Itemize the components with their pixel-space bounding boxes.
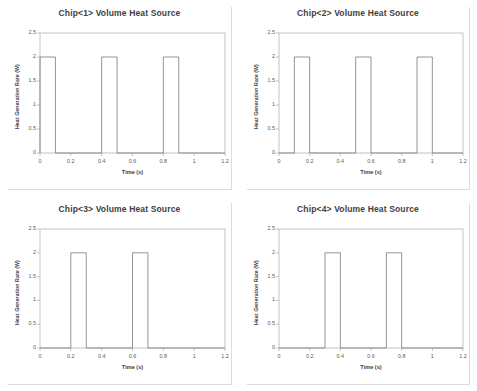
plot-frame bbox=[40, 33, 225, 153]
y-axis-label: Heat Generation Rate (W) bbox=[253, 260, 259, 325]
y-tick-label: 0.5 bbox=[18, 320, 36, 326]
chart-panel-chip4: Chip<4> Volume Heat Source 00.511.522.50… bbox=[239, 196, 477, 391]
x-tick-label: 1.2 bbox=[215, 353, 235, 359]
plot-area-chip1: 00.511.522.500.20.40.60.811.2Time (s)Hea… bbox=[0, 0, 239, 196]
y-tick-label: 2 bbox=[18, 53, 36, 59]
plot-area-chip2: 00.511.522.500.20.40.60.811.2Time (s)Hea… bbox=[239, 0, 477, 196]
y-tick-label: 1.5 bbox=[18, 273, 36, 279]
y-tick-label: 2 bbox=[257, 53, 275, 59]
plot-frame bbox=[279, 229, 463, 348]
chart-panel-chip1: Chip<1> Volume Heat Source 00.511.522.50… bbox=[0, 0, 239, 196]
data-series-line bbox=[279, 253, 463, 348]
x-axis-label: Time (s) bbox=[279, 169, 463, 175]
x-tick-label: 0 bbox=[269, 353, 289, 359]
y-axis-label: Heat Generation Rate (W) bbox=[14, 64, 20, 129]
x-tick-label: 0.6 bbox=[361, 158, 381, 164]
y-tick-label: 2.5 bbox=[18, 29, 36, 35]
chart-panel-chip3: Chip<3> Volume Heat Source 00.511.522.50… bbox=[0, 196, 239, 391]
x-tick-label: 0.4 bbox=[330, 353, 350, 359]
x-tick-label: 0.8 bbox=[392, 158, 412, 164]
y-tick-label: 0 bbox=[18, 344, 36, 350]
y-tick-label: 2.5 bbox=[18, 225, 36, 231]
x-tick-label: 0 bbox=[30, 353, 50, 359]
y-tick-label: 0 bbox=[18, 149, 36, 155]
x-tick-label: 1 bbox=[422, 353, 442, 359]
x-axis-label: Time (s) bbox=[40, 169, 225, 175]
x-tick-label: 0.4 bbox=[92, 353, 112, 359]
y-tick-label: 0.5 bbox=[257, 125, 275, 131]
x-tick-label: 0.8 bbox=[153, 158, 173, 164]
x-tick-label: 1 bbox=[422, 158, 442, 164]
y-tick-label: 1.5 bbox=[257, 273, 275, 279]
data-series-line bbox=[40, 253, 225, 348]
y-tick-label: 1.5 bbox=[18, 77, 36, 83]
y-tick-label: 1 bbox=[257, 101, 275, 107]
x-tick-label: 0.6 bbox=[361, 353, 381, 359]
chart-grid: Chip<1> Volume Heat Source 00.511.522.50… bbox=[0, 0, 477, 391]
plot-area-chip3: 00.511.522.500.20.40.60.811.2Time (s)Hea… bbox=[0, 196, 239, 391]
y-tick-label: 1 bbox=[257, 296, 275, 302]
x-tick-label: 1 bbox=[184, 158, 204, 164]
x-axis-label: Time (s) bbox=[40, 364, 225, 370]
x-tick-label: 1.2 bbox=[453, 158, 473, 164]
x-tick-label: 0 bbox=[30, 158, 50, 164]
x-axis-label: Time (s) bbox=[279, 364, 463, 370]
y-tick-label: 2.5 bbox=[257, 29, 275, 35]
data-series-line bbox=[279, 57, 463, 153]
y-tick-label: 2 bbox=[257, 249, 275, 255]
x-tick-label: 0.6 bbox=[123, 158, 143, 164]
y-tick-label: 2.5 bbox=[257, 225, 275, 231]
x-tick-label: 0.8 bbox=[392, 353, 412, 359]
x-tick-label: 0.2 bbox=[300, 353, 320, 359]
y-tick-label: 1 bbox=[18, 296, 36, 302]
x-tick-label: 1.2 bbox=[215, 158, 235, 164]
figure-canvas: Chip<1> Volume Heat Source 00.511.522.50… bbox=[0, 0, 477, 391]
y-axis-label: Heat Generation Rate (W) bbox=[253, 64, 259, 129]
y-tick-label: 0 bbox=[257, 149, 275, 155]
y-tick-label: 1.5 bbox=[257, 77, 275, 83]
y-tick-label: 1 bbox=[18, 101, 36, 107]
plot-area-chip4: 00.511.522.500.20.40.60.811.2Time (s)Hea… bbox=[239, 196, 477, 391]
x-tick-label: 0.2 bbox=[61, 158, 81, 164]
y-tick-label: 0.5 bbox=[257, 320, 275, 326]
y-tick-label: 2 bbox=[18, 249, 36, 255]
x-tick-label: 0.4 bbox=[330, 158, 350, 164]
x-tick-label: 1.2 bbox=[453, 353, 473, 359]
y-tick-label: 0.5 bbox=[18, 125, 36, 131]
chart-panel-chip2: Chip<2> Volume Heat Source 00.511.522.50… bbox=[239, 0, 477, 196]
x-tick-label: 1 bbox=[184, 353, 204, 359]
y-tick-label: 0 bbox=[257, 344, 275, 350]
x-tick-label: 0.8 bbox=[153, 353, 173, 359]
x-tick-label: 0.6 bbox=[123, 353, 143, 359]
y-axis-label: Heat Generation Rate (W) bbox=[14, 260, 20, 325]
x-tick-label: 0.2 bbox=[61, 353, 81, 359]
x-tick-label: 0.2 bbox=[300, 158, 320, 164]
x-tick-label: 0 bbox=[269, 158, 289, 164]
data-series-line bbox=[40, 57, 225, 153]
x-tick-label: 0.4 bbox=[92, 158, 112, 164]
